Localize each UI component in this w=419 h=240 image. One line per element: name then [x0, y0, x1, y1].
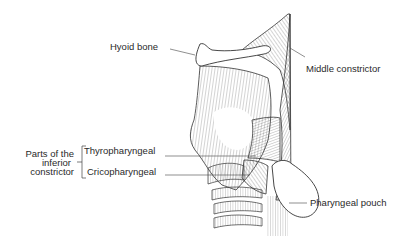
leader-middle-constrictor — [290, 48, 305, 57]
label-cricopharyngeal: Cricopharyngeal — [87, 166, 156, 177]
label-middle-constrictor: Middle constrictor — [306, 63, 380, 74]
hyoid-bone — [196, 44, 271, 66]
leader-hyoid — [170, 49, 195, 55]
label-pharyngeal-pouch: Pharyngeal pouch — [310, 197, 387, 208]
label-thyropharyngeal: Thyropharyngeal — [84, 145, 155, 156]
label-group-line3: constrictor — [30, 166, 74, 177]
thyropharyngeal-muscle — [248, 117, 280, 162]
label-hyoid-bone: Hyoid bone — [110, 41, 158, 52]
